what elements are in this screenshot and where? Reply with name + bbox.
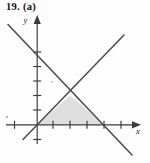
plot-svg: y x	[0, 12, 150, 163]
y-axis-label: y	[23, 15, 28, 25]
x-axis-label: x	[135, 126, 140, 136]
shaded-triangle-region	[38, 96, 105, 125]
problem-label: 19. (a)	[6, 1, 36, 12]
paper-speck	[51, 81, 53, 83]
y-axis-arrowhead	[34, 15, 41, 24]
coordinate-plot: y x	[0, 12, 150, 163]
figure-panel: 19. (a)	[0, 0, 150, 163]
